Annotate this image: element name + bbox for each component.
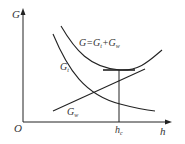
origin-label: O [14,122,22,134]
x-axis-arrow-icon [165,120,172,125]
gw-line [53,69,145,111]
total-cost-curve [61,26,162,70]
diagram-canvas: G h O G=Gt+Gw Gt Gw hc [0,0,185,144]
x-axis-label: h [160,125,166,137]
y-axis-label: G [12,8,20,20]
y-axis-arrow-icon [21,8,26,15]
total-cost-label: G=Gt+Gw [79,37,120,49]
cost-curve-diagram: G h O G=Gt+Gw Gt Gw hc [0,0,185,144]
gw-label: Gw [67,106,78,118]
hc-label: hc [115,124,123,136]
